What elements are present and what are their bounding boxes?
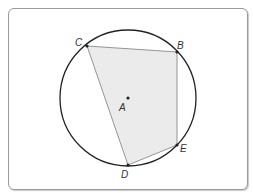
label-b: B [177, 40, 184, 51]
label-e: E [180, 143, 187, 154]
point-e [175, 143, 178, 146]
point-a [126, 96, 129, 99]
label-d: D [121, 169, 128, 180]
point-c [85, 44, 88, 47]
geometry-figure: A B C D E [0, 0, 253, 193]
point-d [126, 163, 129, 166]
quadrilateral-cbed [87, 46, 177, 165]
label-a: A [118, 102, 126, 113]
label-c: C [75, 37, 83, 48]
